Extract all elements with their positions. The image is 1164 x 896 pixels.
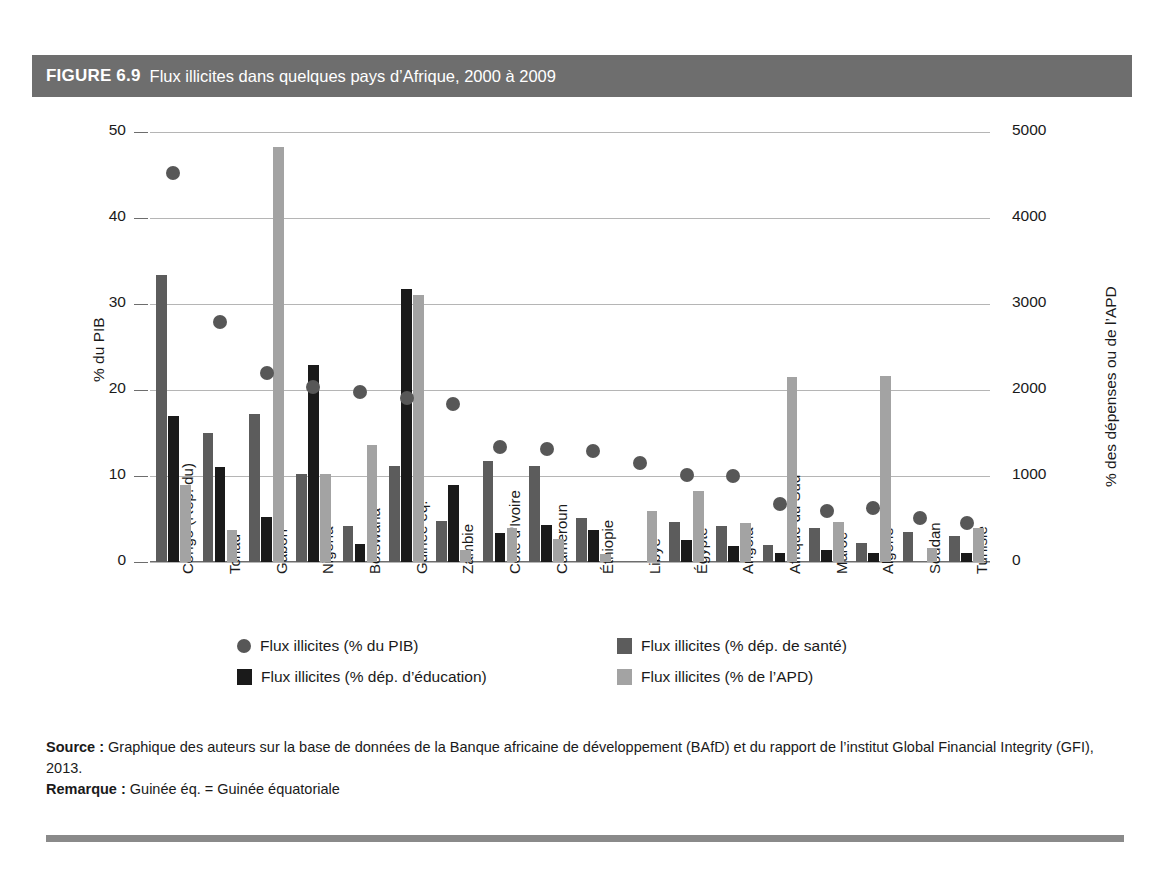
y-axis-right-tick-label: 2000 bbox=[1012, 379, 1046, 397]
bar-group bbox=[430, 132, 477, 562]
figure-number: FIGURE 6.9 bbox=[46, 66, 141, 86]
remark-label: Remarque : bbox=[46, 781, 126, 797]
bar bbox=[740, 523, 751, 562]
bar bbox=[389, 466, 400, 562]
y-axis-right-tick-label: 3000 bbox=[1012, 293, 1046, 311]
legend-row-1: Flux illicites (% du PIB) Flux illicites… bbox=[237, 637, 997, 655]
data-point-dot bbox=[633, 456, 647, 470]
legend-label-pib: Flux illicites (% du PIB) bbox=[260, 637, 418, 655]
bar-group bbox=[897, 132, 944, 562]
bar-group bbox=[850, 132, 897, 562]
bar bbox=[401, 289, 412, 562]
y-axis-left-tick bbox=[134, 304, 148, 305]
figure-notes: Source : Graphique des auteurs sur la ba… bbox=[46, 737, 1121, 800]
bar bbox=[507, 528, 518, 562]
bar bbox=[308, 365, 319, 562]
y-axis-left-tick bbox=[134, 562, 148, 563]
y-axis-left-tick-label: 50 bbox=[109, 121, 126, 139]
bar bbox=[296, 474, 307, 562]
bar-group bbox=[243, 132, 290, 562]
bar bbox=[448, 485, 459, 562]
data-point-dot bbox=[960, 516, 974, 530]
data-point-dot bbox=[680, 468, 694, 482]
data-point-dot bbox=[540, 442, 554, 456]
bar bbox=[576, 518, 587, 562]
data-point-dot bbox=[213, 315, 227, 329]
bar bbox=[949, 536, 960, 562]
y-axis-left-tick bbox=[134, 218, 148, 219]
bar bbox=[343, 526, 354, 562]
bar bbox=[880, 376, 891, 562]
bar bbox=[728, 546, 739, 562]
y-axis-left-tick-label: 40 bbox=[109, 207, 126, 225]
figure-container: FIGURE 6.9 Flux illicites dans quelques … bbox=[32, 55, 1132, 837]
bar bbox=[227, 530, 238, 562]
legend-swatch-dot-icon bbox=[237, 639, 251, 653]
bar bbox=[203, 433, 214, 562]
y-axis-left-tick bbox=[134, 390, 148, 391]
bar-group bbox=[523, 132, 570, 562]
y-axis-left-tick bbox=[134, 132, 148, 133]
y-axis-left-tick-label: 30 bbox=[109, 293, 126, 311]
bar bbox=[249, 414, 260, 562]
bar bbox=[273, 147, 284, 562]
legend-row-2: Flux illicites (% dép. d’éducation) Flux… bbox=[237, 668, 997, 686]
bar bbox=[483, 461, 494, 562]
legend-item-education[interactable]: Flux illicites (% dép. d’éducation) bbox=[237, 668, 617, 686]
bar bbox=[180, 485, 191, 562]
legend-swatch-education-icon bbox=[237, 669, 252, 685]
bar bbox=[529, 466, 540, 562]
bar bbox=[553, 539, 564, 562]
chart-canvas: % du PIB % des dépenses ou de l’APD 0010… bbox=[32, 97, 1132, 837]
legend-item-apd[interactable]: Flux illicites (% de l’APD) bbox=[617, 668, 997, 686]
chart-legend: Flux illicites (% du PIB) Flux illicites… bbox=[237, 637, 997, 699]
bar bbox=[763, 545, 774, 562]
data-point-dot bbox=[913, 511, 927, 525]
y-axis-right-tick-label: 1000 bbox=[1012, 465, 1046, 483]
source-label: Source : bbox=[46, 739, 104, 755]
bar-group bbox=[617, 132, 664, 562]
data-point-dot bbox=[493, 440, 507, 454]
bar bbox=[693, 491, 704, 562]
y-axis-left-title: % du PIB bbox=[90, 317, 108, 382]
data-point-dot bbox=[260, 366, 274, 380]
data-point-dot bbox=[306, 380, 320, 394]
data-point-dot bbox=[773, 497, 787, 511]
bar bbox=[367, 445, 378, 562]
bar bbox=[856, 543, 867, 562]
legend-label-sante: Flux illicites (% dép. de santé) bbox=[641, 637, 847, 655]
legend-item-pib[interactable]: Flux illicites (% du PIB) bbox=[237, 637, 617, 655]
figure-title-bar: FIGURE 6.9 Flux illicites dans quelques … bbox=[32, 55, 1132, 97]
bar bbox=[413, 295, 424, 562]
bar-group bbox=[570, 132, 617, 562]
bar bbox=[973, 528, 984, 562]
bar bbox=[868, 553, 879, 562]
bar bbox=[787, 377, 798, 562]
bar bbox=[669, 522, 680, 562]
bar bbox=[436, 521, 447, 562]
bar bbox=[215, 467, 226, 562]
figure-title: Flux illicites dans quelques pays d’Afri… bbox=[150, 67, 556, 86]
source-note: Source : Graphique des auteurs sur la ba… bbox=[46, 737, 1121, 779]
data-point-dot bbox=[166, 166, 180, 180]
plot-area: 00101000202000303000404000505000Congo (R… bbox=[150, 132, 990, 562]
bar bbox=[541, 525, 552, 562]
bar-group bbox=[943, 132, 990, 562]
bar bbox=[261, 517, 272, 562]
y-axis-left-tick-label: 0 bbox=[117, 551, 126, 569]
bar-group bbox=[757, 132, 804, 562]
bar bbox=[961, 553, 972, 562]
bar bbox=[320, 474, 331, 562]
source-text: Graphique des auteurs sur la base de don… bbox=[46, 739, 1094, 776]
y-axis-right-tick-label: 4000 bbox=[1012, 207, 1046, 225]
legend-label-apd: Flux illicites (% de l’APD) bbox=[641, 668, 813, 686]
bar bbox=[716, 526, 727, 562]
bar bbox=[903, 532, 914, 562]
data-point-dot bbox=[400, 391, 414, 405]
data-point-dot bbox=[353, 385, 367, 399]
y-axis-right-tick-label: 0 bbox=[1012, 551, 1021, 569]
legend-swatch-apd-icon bbox=[617, 669, 632, 685]
data-point-dot bbox=[866, 501, 880, 515]
legend-item-sante[interactable]: Flux illicites (% dép. de santé) bbox=[617, 637, 997, 655]
data-point-dot bbox=[820, 504, 834, 518]
